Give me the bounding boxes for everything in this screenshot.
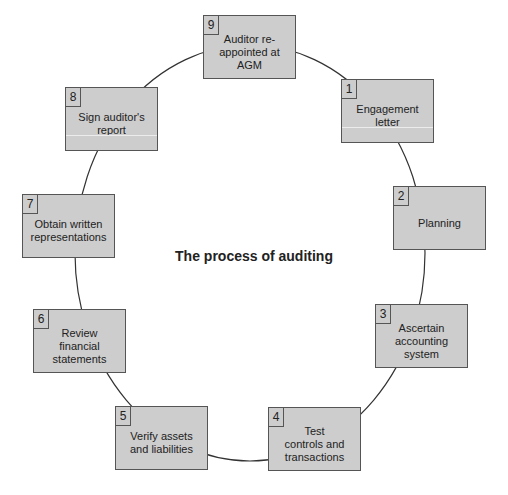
step-2-planning: 2 Planning xyxy=(393,186,486,250)
step-label: Test controls and transactions xyxy=(273,422,356,466)
step-9-auditor-reappointed: 9 Auditor re- appointed at AGM xyxy=(203,15,296,79)
step-1-engagement-letter: 1 Engagement letter xyxy=(341,79,434,143)
step-label: Obtain written representations xyxy=(27,209,110,253)
step-label: Auditor re- appointed at AGM xyxy=(208,30,291,74)
step-6-review-financial-statements: 6 Review financial statements xyxy=(33,309,126,373)
step-7-written-representations: 7 Obtain written representations xyxy=(22,194,115,258)
step-5-verify-assets: 5 Verify assets and liabilities xyxy=(115,406,208,470)
step-label: Engagement letter xyxy=(346,94,429,138)
step-label: Sign auditor's report xyxy=(70,102,153,146)
step-label: Review financial statements xyxy=(38,324,121,368)
step-label: Ascertain accounting system xyxy=(380,319,463,363)
step-3-ascertain-accounting-system: 3 Ascertain accounting system xyxy=(375,304,468,368)
diagram-title: The process of auditing xyxy=(150,248,358,264)
step-4-test-controls: 4 Test controls and transactions xyxy=(268,407,361,471)
step-8-sign-report: 8 Sign auditor's report xyxy=(65,87,158,151)
step-label: Planning xyxy=(398,201,481,245)
step-label: Verify assets and liabilities xyxy=(120,421,203,465)
